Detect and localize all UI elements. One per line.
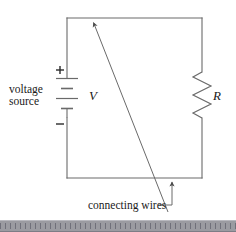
bottom-ruler-strip (0, 220, 236, 232)
battery-polarity-marks (56, 66, 64, 124)
voltage-source-label-line1: voltage (9, 83, 43, 95)
ruler-tick-marks (0, 223, 236, 229)
resistor-symbol-label: R (213, 89, 221, 103)
voltage-symbol-label: V (89, 89, 97, 103)
ruler-bottom-edge (0, 231, 236, 232)
resistor-symbol (193, 72, 211, 118)
connecting-wires-loop (67, 18, 202, 178)
voltage-source-label-line2: source (9, 95, 43, 107)
connecting-wires-label: connecting wires (88, 199, 166, 211)
leader-diagonal-to-top-wire (94, 23, 169, 213)
circuit-diagram (0, 0, 236, 232)
ruler-top-edge (0, 220, 236, 221)
voltage-source-label: voltage source (9, 83, 43, 108)
figure-canvas: voltage source V R connecting wires (0, 0, 236, 232)
resistor-zigzag-path (193, 72, 211, 118)
battery-symbol (56, 79, 78, 119)
annotation-leaders (94, 23, 173, 213)
